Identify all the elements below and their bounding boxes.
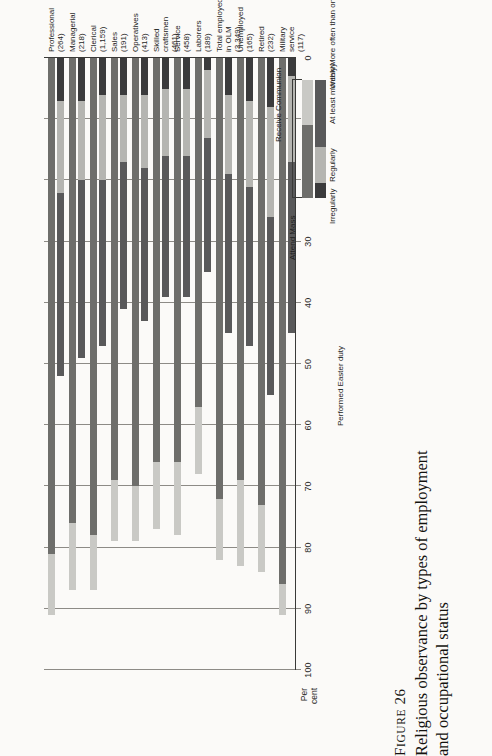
legend-bracket-top [292, 79, 293, 198]
segment-more-often-than-once-a-week [57, 58, 65, 101]
segment-regularly [132, 58, 140, 486]
receive-communion-bar [141, 58, 149, 321]
segment-weekly [162, 89, 170, 156]
segment-at-least-monthly [183, 156, 191, 297]
category-label-line: Laborers [194, 20, 203, 52]
x-tick-label-80: 80 [303, 542, 313, 552]
bar-group [214, 58, 235, 670]
bar-group [151, 58, 172, 670]
figure-number-line: FIGURE 26 [392, 116, 409, 756]
x-tick-label-100: 100 [303, 662, 313, 678]
legend-group1-title: Attend Mass [288, 216, 297, 260]
category-label-line: (191) [119, 32, 128, 52]
x-tick-label-60: 60 [303, 420, 313, 430]
category-label-line: Total employed [215, 0, 224, 52]
segment-irregularly [48, 554, 56, 615]
segment-irregularly [279, 584, 287, 615]
segment-at-least-monthly [162, 156, 170, 297]
category-label-line: Clerical [89, 25, 98, 52]
x-tick-label-40: 40 [303, 298, 313, 308]
segment-at-least-monthly [204, 138, 212, 273]
category-label: Sales(191) [110, 32, 128, 52]
bar-group [46, 58, 67, 670]
segment-weekly [57, 101, 65, 193]
legend-communion-bracket [292, 79, 302, 80]
x-tick-label-70: 70 [303, 481, 313, 491]
segment-more-often-than-once-a-week [141, 58, 149, 95]
receive-communion-bar [78, 58, 86, 358]
segment-weekly [225, 95, 233, 175]
segment-more-often-than-once-a-week [78, 58, 86, 101]
segment-weekly [204, 70, 212, 137]
bar-group [67, 58, 88, 670]
segment-irregularly [90, 535, 98, 590]
category-label: Laborers(189) [194, 20, 212, 52]
bar-group [88, 58, 109, 670]
segment-regularly [90, 58, 98, 535]
segment-weekly [78, 101, 86, 181]
category-label-line: Managerial [68, 12, 77, 52]
segment-regularly [153, 58, 161, 462]
receive-communion-bar [57, 58, 65, 376]
segment-irregularly [195, 407, 203, 474]
category-label-line: craftsmen [161, 17, 170, 52]
legend-swatch-more-often [315, 183, 326, 198]
legend-item-more-often: More often than once a week [328, 0, 337, 66]
category-label-line: Operatives [131, 13, 140, 52]
category-label: Professional(264) [47, 8, 65, 52]
receive-communion-bar [162, 58, 170, 297]
legend-item-regularly: Regularly [328, 148, 337, 182]
category-label-line: (1,159) [98, 25, 107, 52]
legend-mass-bracket [292, 197, 302, 198]
bar-group [130, 58, 151, 670]
segment-more-often-than-once-a-week [225, 58, 233, 95]
axis-unit-label: Per cent [300, 688, 319, 752]
x-tick-label-90: 90 [303, 604, 313, 614]
segment-irregularly [237, 480, 245, 566]
category-label-line: in OLM [224, 0, 233, 52]
category-label: Clerical(1,159) [89, 25, 107, 52]
segment-at-least-monthly [225, 174, 233, 333]
easter-duty-annotation: Performed Easter duty [336, 346, 345, 426]
attend-mass-bar [153, 58, 161, 529]
easter-duty-label: Performed Easter duty [336, 346, 345, 426]
segment-irregularly [174, 462, 182, 535]
segment-at-least-monthly [141, 168, 149, 321]
category-label: Service(458) [173, 25, 191, 52]
segment-more-often-than-once-a-week [99, 58, 107, 95]
category-label-line: (264) [56, 8, 65, 52]
segment-at-least-monthly [78, 180, 86, 357]
x-tick-label-50: 50 [303, 359, 313, 369]
figure-caption: FIGURE 26 Religious observance by types … [392, 116, 453, 756]
figure-caption-line2: and occupational status [432, 116, 453, 756]
bar-group [109, 58, 130, 670]
segment-more-often-than-once-a-week [204, 58, 212, 70]
figure-caption-line1: Religious observance by types of employm… [411, 116, 432, 756]
legend-swatch-irregularly [302, 80, 313, 125]
receive-communion-bar [99, 58, 107, 346]
segment-at-least-monthly [57, 193, 65, 377]
segment-more-often-than-once-a-week [120, 58, 128, 95]
segment-irregularly [258, 505, 266, 572]
segment-regularly [69, 58, 77, 523]
segment-weekly [141, 95, 149, 168]
receive-communion-bar [120, 58, 128, 309]
attend-mass-bar [132, 58, 140, 541]
receive-communion-bar [225, 58, 233, 333]
segment-weekly [183, 89, 191, 156]
segment-irregularly [69, 523, 77, 590]
category-label: Managerial(218) [68, 12, 86, 52]
category-label-line: Service [173, 25, 182, 52]
attend-mass-bar [111, 58, 119, 541]
category-label-line: Skilled [152, 17, 161, 52]
figure-number: 26 [392, 688, 408, 704]
receive-communion-bar [183, 58, 191, 297]
segment-more-often-than-once-a-week [162, 58, 170, 89]
segment-irregularly [132, 486, 140, 541]
receive-communion-bar [204, 58, 212, 272]
segment-regularly [195, 58, 203, 407]
segment-irregularly [216, 499, 224, 560]
segment-at-least-monthly [99, 180, 107, 345]
legend-item-weekly: Weekly [328, 63, 337, 89]
attend-mass-bar [90, 58, 98, 590]
